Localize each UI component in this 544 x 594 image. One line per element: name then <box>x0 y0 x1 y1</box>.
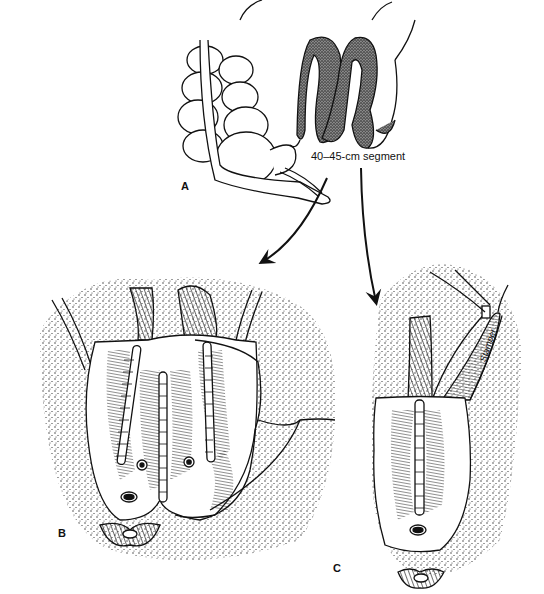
panel-label-a: A <box>181 180 189 192</box>
panel-label-c: C <box>333 562 341 574</box>
segment-length-callout: 40–45-cm segment <box>311 150 405 162</box>
panel-b-drawing <box>40 278 336 561</box>
panel-label-b: B <box>58 527 66 539</box>
surgical-illustration: A B C 40–45-cm segment Stamper <box>0 0 544 594</box>
arrow-to-c <box>361 168 376 302</box>
illustration-drawing <box>0 0 544 594</box>
panel-a-drawing <box>178 0 415 204</box>
panel-c-drawing <box>371 264 521 588</box>
